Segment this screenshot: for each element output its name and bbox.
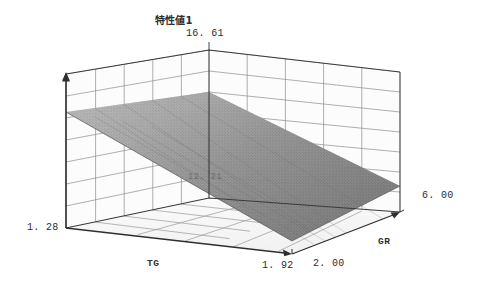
surface-midpoint-annotation: 12. 21 [188,172,222,182]
surface-plot-figure: 特性値1 16. 61 1. 28 1. 92 2. 00 6. 00 TG G… [0,0,480,302]
tg-axis-title: TG [147,258,159,269]
plot-canvas [0,0,480,302]
gr-axis-max-label: 6. 00 [422,190,454,201]
gr-axis-min-label: 2. 00 [313,258,345,269]
z-axis-min-label: 1. 28 [27,222,59,233]
z-axis-max-label: 16. 61 [186,28,224,39]
plot-title: 特性値1 [155,12,193,27]
tg-axis-max-label: 1. 92 [262,260,294,271]
gr-axis-title: GR [378,236,390,247]
